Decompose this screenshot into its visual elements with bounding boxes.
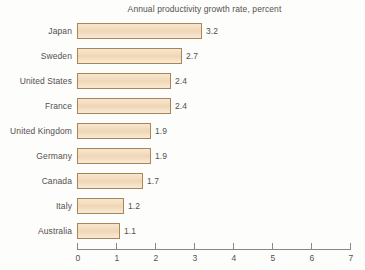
bar <box>77 98 171 114</box>
value-label: 1.7 <box>147 173 159 189</box>
bar-row: Canada 1.7 <box>0 173 365 189</box>
axis-tick <box>116 243 117 250</box>
category-label: United Kingdom <box>0 123 72 139</box>
bar <box>77 223 120 239</box>
x-tick-label: 3 <box>187 253 203 263</box>
bar-row: Germany 1.9 <box>0 148 365 164</box>
axis-tick <box>194 243 195 250</box>
bar-row: United Kingdom 1.9 <box>0 123 365 139</box>
x-tick-label: 0 <box>70 253 86 263</box>
bar-row: Sweden 2.7 <box>0 48 365 64</box>
value-label: 2.7 <box>186 48 198 64</box>
category-label: Italy <box>0 198 72 214</box>
bar <box>77 73 171 89</box>
axis-tick <box>272 243 273 250</box>
plot-area: Japan 3.2 Sweden 2.7 United States 2.4 F… <box>0 20 365 270</box>
category-label: Japan <box>0 23 72 39</box>
bar-row: Japan 3.2 <box>0 23 365 39</box>
category-label: Sweden <box>0 48 72 64</box>
x-tick-label: 2 <box>148 253 164 263</box>
axis-tick <box>233 243 234 250</box>
bar <box>77 123 151 139</box>
axis-tick <box>77 243 78 250</box>
category-label: Germany <box>0 148 72 164</box>
axis-line <box>77 249 350 250</box>
x-tick-label: 7 <box>343 253 359 263</box>
bar <box>77 48 182 64</box>
chart-title: Annual productivity growth rate, percent <box>0 4 365 14</box>
axis-tick <box>350 243 351 250</box>
category-label: Canada <box>0 173 72 189</box>
value-label: 1.9 <box>155 123 167 139</box>
value-label: 3.2 <box>206 23 218 39</box>
bar-row: France 2.4 <box>0 98 365 114</box>
value-label: 1.9 <box>155 148 167 164</box>
bar <box>77 148 151 164</box>
category-label: Australia <box>0 223 72 239</box>
value-label: 2.4 <box>175 73 187 89</box>
x-tick-label: 5 <box>265 253 281 263</box>
bar-chart: Annual productivity growth rate, percent… <box>0 0 365 270</box>
bar <box>77 173 143 189</box>
x-tick-label: 1 <box>109 253 125 263</box>
category-label: United States <box>0 73 72 89</box>
value-label: 1.1 <box>124 223 136 239</box>
value-label: 1.2 <box>128 198 140 214</box>
x-tick-label: 6 <box>304 253 320 263</box>
category-label: France <box>0 98 72 114</box>
axis-tick <box>311 243 312 250</box>
axis-tick <box>155 243 156 250</box>
bar-row: Italy 1.2 <box>0 198 365 214</box>
bar-row: United States 2.4 <box>0 73 365 89</box>
value-label: 2.4 <box>175 98 187 114</box>
bar <box>77 23 202 39</box>
bar-row: Australia 1.1 <box>0 223 365 239</box>
bar <box>77 198 124 214</box>
x-tick-label: 4 <box>226 253 242 263</box>
